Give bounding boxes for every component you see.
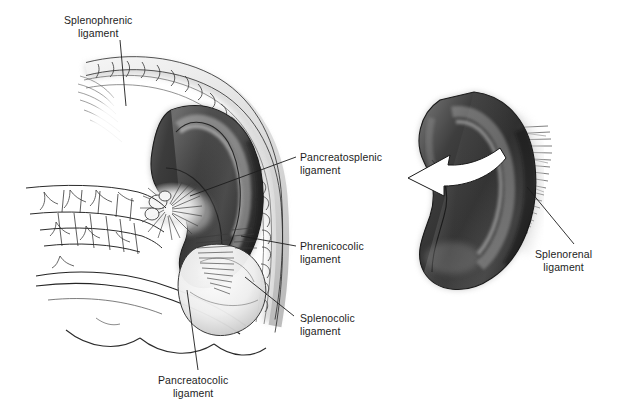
label-splenophrenic-line2: ligament [64, 27, 132, 40]
label-splenocolic-line1: Splenocolic [300, 312, 355, 324]
illustration-canvas [0, 0, 618, 418]
label-splenorenal-line1: Splenorenal [535, 248, 592, 260]
spleen-in-situ-view [26, 40, 296, 370]
label-splenocolic-line2: ligament [300, 325, 355, 338]
label-pancreatosplenic: Pancreatosplenic ligament [300, 151, 382, 176]
anatomy-figure: Splenophrenic ligament Pancreatosplenic … [0, 0, 618, 418]
label-pancreatosplenic-line2: ligament [300, 164, 382, 177]
label-splenocolic: Splenocolic ligament [300, 312, 355, 337]
label-pancreatocolic: Pancreatocolic ligament [158, 374, 228, 399]
label-phrenicocolic: Phrenicocolic ligament [300, 240, 364, 265]
label-splenorenal-line2: ligament [535, 261, 592, 274]
label-pancreatocolic-line1: Pancreatocolic [158, 374, 228, 386]
label-phrenicocolic-line1: Phrenicocolic [300, 240, 364, 252]
label-pancreatosplenic-line1: Pancreatosplenic [300, 151, 382, 163]
label-phrenicocolic-line2: ligament [300, 253, 364, 266]
label-pancreatocolic-line2: ligament [158, 387, 228, 400]
label-splenorenal: Splenorenal ligament [535, 248, 592, 273]
label-splenophrenic: Splenophrenic ligament [64, 14, 132, 39]
label-splenophrenic-line1: Splenophrenic [64, 14, 132, 26]
